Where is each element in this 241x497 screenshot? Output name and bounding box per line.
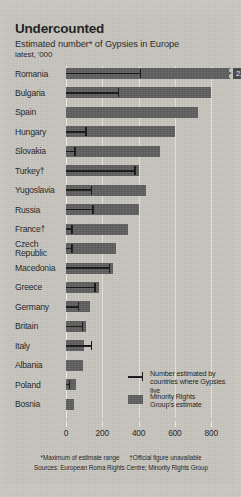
- x-tick-label-0: 0: [64, 428, 68, 438]
- x-tick-mark-0: [66, 421, 67, 427]
- gridline-200: [102, 66, 103, 418]
- chart-subtitle: Estimated number* of Gypsies in Europe: [15, 39, 179, 49]
- category-label: Germany: [15, 303, 49, 312]
- x-tick-mark-800: [211, 421, 212, 427]
- chart-page: Undercounted Estimated number* of Gypsie…: [0, 0, 241, 497]
- whisker-cap: [109, 264, 111, 273]
- category-label: Britain: [15, 322, 38, 331]
- category-label: Yugoslavia: [15, 186, 55, 195]
- chart-card: Undercounted Estimated number* of Gypsie…: [6, 14, 235, 484]
- bar-mrg: [66, 399, 74, 410]
- whisker-cap: [71, 225, 73, 234]
- category-label: Bulgaria: [15, 89, 45, 98]
- whisker-cap: [78, 302, 80, 311]
- whisker-line: [66, 287, 95, 289]
- category-label: Albania: [15, 361, 42, 370]
- chart-legend: Number estimated by countries where Gyps…: [128, 371, 234, 417]
- whisker-cap: [69, 380, 71, 389]
- category-label: Hungary: [15, 128, 46, 137]
- category-label: Bosnia: [15, 400, 40, 409]
- page-title: Undercounted: [15, 21, 104, 36]
- whisker-cap: [134, 166, 136, 175]
- bar-break-zigzag-icon: [226, 68, 233, 79]
- legend-item-official: Number estimated by countries where Gyps…: [128, 371, 234, 389]
- whisker-line: [66, 267, 110, 269]
- x-tick-label-200: 200: [96, 428, 109, 438]
- x-tick-mark-200: [102, 421, 103, 427]
- whisker-cap: [91, 341, 93, 350]
- whisker-cap: [92, 205, 94, 214]
- bar-mrg: [66, 107, 198, 118]
- whisker-line: [66, 131, 86, 133]
- bar-swatch-icon: [128, 395, 143, 404]
- whisker-line: [66, 170, 135, 172]
- x-tick-label-400: 400: [132, 428, 145, 438]
- category-label: Slovakia: [15, 147, 46, 156]
- whisker-line: [66, 92, 119, 94]
- x-tick-mark-400: [139, 421, 140, 427]
- gridline-800: [211, 66, 212, 418]
- x-tick-label-800: 800: [205, 428, 218, 438]
- x-axis-ticks: 0200400600800: [6, 428, 235, 440]
- x-tick-label-600: 600: [168, 428, 181, 438]
- whisker-cap: [140, 69, 142, 78]
- category-label: Greece: [15, 283, 42, 292]
- x-tick-mark-600: [175, 421, 176, 427]
- whisker-line: [66, 326, 82, 328]
- chart-units: latest, '000: [15, 50, 52, 59]
- footnote-maximum: *Maximum of estimate range: [41, 454, 120, 461]
- whisker-cap: [85, 127, 87, 136]
- gridline-600: [175, 66, 176, 418]
- bar-mrg: [66, 243, 116, 254]
- whisker-cap: [91, 186, 93, 195]
- legend-label-mrg: Minority Rights Group's estimate: [150, 393, 202, 410]
- whisker-line: [66, 345, 91, 347]
- whisker-line: [66, 189, 91, 191]
- bar-mrg: [66, 146, 160, 157]
- bar-value-label: 2,500: [233, 68, 241, 80]
- whisker-cap: [82, 322, 84, 331]
- bar-mrg: [66, 360, 83, 371]
- category-label: Italy: [15, 342, 30, 351]
- footnote-sources: Sources: European Roma Rights Centre; Mi…: [15, 464, 227, 471]
- whisker-cap-icon: [142, 372, 144, 381]
- whisker-cap: [94, 283, 96, 292]
- footnote-line-1: *Maximum of estimate range†Official figu…: [15, 454, 227, 461]
- category-label: Russia: [15, 206, 40, 215]
- category-label: Macedonia: [15, 264, 55, 273]
- category-label: Romania: [15, 70, 48, 79]
- whisker-line: [66, 209, 93, 211]
- gridline-400: [139, 66, 140, 418]
- footnote-official: †Official figure unavailable: [129, 454, 201, 461]
- category-label: CzechRepublic: [15, 240, 47, 258]
- whisker-line: [66, 73, 140, 75]
- whisker-cap: [74, 147, 76, 156]
- category-label: France†: [15, 225, 45, 234]
- category-label: Spain: [15, 108, 36, 117]
- whisker-line: [66, 306, 79, 308]
- whisker-cap: [71, 244, 73, 253]
- whisker-cap: [118, 88, 120, 97]
- category-label: Turkey†: [15, 167, 44, 176]
- legend-item-mrg: Minority Rights Group's estimate: [128, 394, 234, 412]
- bar-mrg: [66, 224, 128, 235]
- category-label: Poland: [15, 381, 41, 390]
